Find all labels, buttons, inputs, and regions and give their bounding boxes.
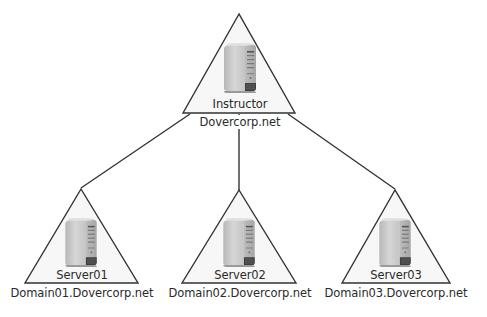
server-icon [379,218,410,267]
child-server-label-2: Server02 [214,268,266,282]
connector-root-to-server03 [288,114,395,189]
child-domain-label-1: Domain01.Dovercorp.net [9,286,156,300]
root-domain-label: Dovercorp.net [198,115,283,129]
child-server-label-3: Server03 [370,268,422,282]
server-icon [224,43,256,93]
child-server-label-1: Server01 [56,268,108,282]
child-domain-label-2: Domain02.Dovercorp.net [167,286,314,300]
root-server-label: Instructor [213,97,268,111]
connector-root-to-server01 [81,114,190,188]
server-icon [65,218,96,267]
child-domain-label-3: Domain03.Dovercorp.net [323,286,470,300]
server-icon [223,218,254,267]
